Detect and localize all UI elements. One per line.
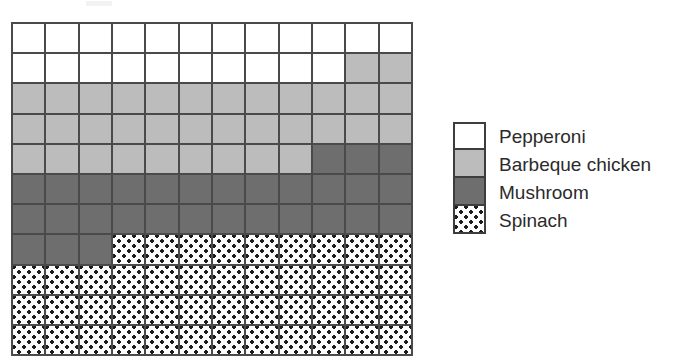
grid-cell <box>280 235 313 265</box>
grid-cell <box>213 205 246 235</box>
grid-cell <box>180 145 213 175</box>
grid-cell <box>80 235 113 265</box>
grid-cell <box>246 24 279 54</box>
grid-cell <box>113 175 146 205</box>
grid-cell <box>13 145 46 175</box>
grid-cell <box>13 235 46 265</box>
grid-cell <box>280 205 313 235</box>
grid-cell <box>280 296 313 326</box>
grid-cell <box>380 54 413 84</box>
legend-label-pepperoni: Pepperoni <box>499 127 586 146</box>
grid-cell <box>180 175 213 205</box>
grid-cell <box>146 266 179 296</box>
legend-item-pepperoni: Pepperoni <box>453 122 683 150</box>
grid-cell <box>380 205 413 235</box>
grid-cell <box>280 115 313 145</box>
grid-cell <box>80 326 113 356</box>
grid-cell <box>80 175 113 205</box>
grid-cell <box>46 24 79 54</box>
grid-cell <box>13 54 46 84</box>
grid-cell <box>113 266 146 296</box>
grid-cell <box>146 205 179 235</box>
grid-cell <box>113 145 146 175</box>
legend-swatch-pepperoni <box>453 122 486 150</box>
grid-cell <box>346 145 379 175</box>
grid-cell <box>213 115 246 145</box>
grid-cell <box>180 54 213 84</box>
grid-cell <box>380 235 413 265</box>
grid-cell <box>113 115 146 145</box>
grid-cell <box>313 326 346 356</box>
grid-cell <box>246 175 279 205</box>
legend-item-barbeque: Barbeque chicken <box>453 150 683 178</box>
grid-cell <box>46 54 79 84</box>
grid-cell <box>246 54 279 84</box>
legend-label-barbeque: Barbeque chicken <box>499 155 651 174</box>
grid-cell <box>80 296 113 326</box>
grid-cell <box>313 296 346 326</box>
grid-cell <box>213 175 246 205</box>
grid-cell <box>380 84 413 114</box>
grid-cell <box>346 326 379 356</box>
grid-cell <box>80 145 113 175</box>
grid-cell <box>146 84 179 114</box>
grid-cell <box>346 24 379 54</box>
grid-cell <box>13 326 46 356</box>
grid-cell <box>13 115 46 145</box>
grid-cell <box>113 326 146 356</box>
grid-cell <box>246 84 279 114</box>
grid-cell <box>80 84 113 114</box>
grid-cell <box>280 145 313 175</box>
grid-cell <box>213 24 246 54</box>
grid-cell <box>346 296 379 326</box>
grid-cell <box>213 54 246 84</box>
grid-cell <box>213 84 246 114</box>
grid-cell <box>380 24 413 54</box>
legend-swatch-spinach <box>453 206 486 234</box>
grid-cell <box>346 84 379 114</box>
grid-cell <box>80 54 113 84</box>
grid-cell <box>146 326 179 356</box>
legend-item-mushroom: Mushroom <box>453 178 683 206</box>
grid-cell <box>113 24 146 54</box>
grid-cell <box>146 175 179 205</box>
grid-cell <box>13 205 46 235</box>
chart-legend: PepperoniBarbeque chickenMushroomSpinach <box>453 122 683 234</box>
legend-item-spinach: Spinach <box>453 206 683 234</box>
grid-cell <box>113 205 146 235</box>
grid-cell <box>380 296 413 326</box>
grid-cell <box>346 175 379 205</box>
grid-cell <box>280 326 313 356</box>
grid-cell <box>146 296 179 326</box>
grid-cell <box>313 24 346 54</box>
grid-cell <box>46 145 79 175</box>
grid-cell <box>13 24 46 54</box>
grid-cell <box>213 296 246 326</box>
grid-cell <box>280 24 313 54</box>
grid-cell <box>280 175 313 205</box>
grid-cell <box>280 266 313 296</box>
grid-cell <box>246 326 279 356</box>
grid-cell <box>380 326 413 356</box>
grid-cell <box>146 145 179 175</box>
grid-cell <box>180 266 213 296</box>
grid-cell <box>346 266 379 296</box>
grid-cell <box>213 326 246 356</box>
grid-cell <box>246 235 279 265</box>
grid-cell <box>246 205 279 235</box>
grid-cell <box>13 175 46 205</box>
grid-cell <box>80 266 113 296</box>
grid-cell <box>280 84 313 114</box>
legend-label-mushroom: Mushroom <box>499 183 589 202</box>
grid-cell <box>313 205 346 235</box>
grid-cell <box>380 115 413 145</box>
grid-cell <box>46 326 79 356</box>
grid-cell <box>146 54 179 84</box>
grid-cell <box>246 266 279 296</box>
grid-cell <box>146 115 179 145</box>
grid-cell <box>146 235 179 265</box>
grid-cell <box>46 235 79 265</box>
grid-cell <box>213 266 246 296</box>
grid-cell <box>313 145 346 175</box>
grid-cell <box>346 115 379 145</box>
